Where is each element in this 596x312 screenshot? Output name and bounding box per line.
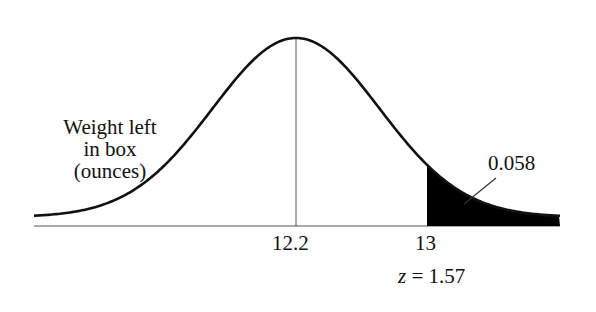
z-variable: z	[398, 264, 406, 288]
z-value: = 1.57	[406, 264, 465, 288]
variable-label-line2: in box	[40, 138, 180, 160]
cutoff-tick-label: 13	[415, 232, 436, 254]
variable-label: Weight left in box (ounces)	[40, 116, 180, 182]
mean-tick-label: 12.2	[272, 232, 309, 254]
tail-area-label: 0.058	[488, 152, 535, 174]
variable-label-line3: (ounces)	[40, 160, 180, 182]
z-score-label: z = 1.57	[398, 265, 465, 287]
variable-label-line1: Weight left	[40, 116, 180, 138]
